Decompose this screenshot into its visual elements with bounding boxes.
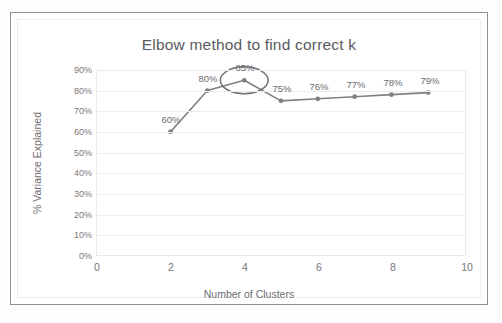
x-axis-tick-label: 6 [316,261,322,273]
page-header-text [360,0,500,10]
y-axis-title-label: % Variance Explained [31,112,43,214]
data-point-label: 80% [198,73,217,84]
y-axis-tick-label: 90% [74,65,92,75]
plot-area: 0%10%20%30%40%50%60%70%80%90%024681060%8… [96,70,466,256]
chart-title: Elbow method to find correct k [18,36,480,54]
x-axis-tick-label: 0 [94,261,100,273]
data-point-label: 76% [309,81,328,92]
y-axis-tick-label: 10% [74,230,92,240]
gridline-horizontal [97,70,465,71]
data-point-label: 79% [420,75,439,86]
data-point-marker [242,78,247,83]
gridline-horizontal [97,215,465,216]
data-point-marker [352,94,357,99]
data-point-label: 60% [161,114,180,125]
gridline-horizontal [97,173,465,174]
x-axis-tick-label: 4 [242,261,248,273]
series-line [97,70,465,255]
figure-inner-panel: Elbow method to find correct k % Varianc… [17,19,481,298]
figure-page: Elbow method to find correct k % Varianc… [0,0,502,323]
data-point-marker [389,92,394,97]
figure-caption [0,313,502,323]
data-point-label: 75% [272,83,291,94]
gridline-horizontal [97,153,465,154]
data-point-label: 85% [235,62,254,73]
elbow-method-chart: Elbow method to find correct k % Varianc… [18,20,480,297]
x-axis-tick-label: 2 [168,261,174,273]
y-axis-title: % Variance Explained [30,70,44,256]
gridline-horizontal [97,132,465,133]
y-axis-tick-label: 70% [74,106,92,116]
data-point-label: 78% [383,77,402,88]
y-axis-tick-label: 80% [74,86,92,96]
gridline-horizontal [97,194,465,195]
y-axis-tick-label: 40% [74,168,92,178]
data-point-label: 77% [346,79,365,90]
x-axis-tick-label: 10 [461,261,473,273]
y-axis-tick-label: 50% [74,148,92,158]
x-axis-tick-label: 8 [390,261,396,273]
y-axis-tick-label: 0% [79,251,92,261]
data-point-marker [279,98,284,103]
y-axis-tick-label: 60% [74,127,92,137]
x-axis-title: Number of Clusters [18,288,480,300]
y-axis-tick-label: 20% [74,210,92,220]
gridline-horizontal [97,111,465,112]
gridline-horizontal [97,235,465,236]
series-polyline [171,80,429,131]
data-point-marker [315,96,320,101]
y-axis-tick-label: 30% [74,189,92,199]
figure-outer-frame: Elbow method to find correct k % Varianc… [10,12,488,305]
